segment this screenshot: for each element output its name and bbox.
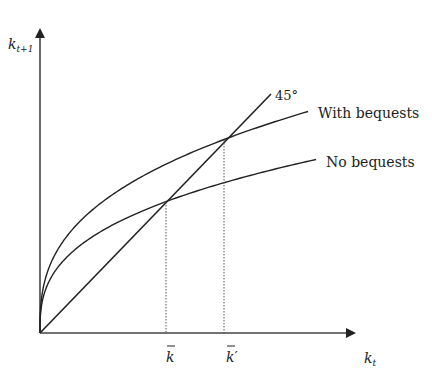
diagram-canvas: kt+1 kt 45° With bequests No bequests k … <box>0 0 432 381</box>
curve-no-bequests <box>40 159 316 333</box>
curve-with-bequests <box>40 111 308 333</box>
label-45-degree: 45° <box>275 88 298 103</box>
label-kbar-prime: k′ <box>226 346 238 365</box>
y-axis-label: kt+1 <box>8 36 33 54</box>
label-with-bequests: With bequests <box>318 105 419 121</box>
svg-text:k: k <box>166 349 174 365</box>
line-45-degree <box>40 94 271 333</box>
x-axis-label: kt <box>364 350 376 368</box>
label-kbar: k <box>166 346 175 365</box>
svg-text:k′: k′ <box>226 349 238 365</box>
label-no-bequests: No bequests <box>326 154 415 170</box>
